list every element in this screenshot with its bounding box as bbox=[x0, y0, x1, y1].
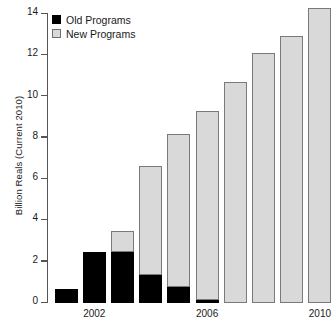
bar-segment-old-programs[interactable] bbox=[83, 252, 106, 303]
y-axis-tick bbox=[41, 95, 47, 96]
y-axis-tick bbox=[41, 219, 47, 220]
bar-segment-new-programs[interactable] bbox=[280, 36, 303, 303]
bar-group[interactable] bbox=[280, 14, 303, 303]
chart-figure: Billion Reals (Current 2010) 02468101214… bbox=[0, 0, 334, 331]
y-axis-tick bbox=[41, 178, 47, 179]
bar-segment-new-programs[interactable] bbox=[167, 134, 190, 287]
legend-swatch-old-programs-icon bbox=[52, 15, 61, 24]
bar-group[interactable] bbox=[224, 14, 247, 303]
bar-segment-new-programs[interactable] bbox=[111, 231, 134, 252]
legend-label-old-programs: Old Programs bbox=[66, 14, 131, 26]
bar-segment-new-programs[interactable] bbox=[139, 166, 162, 275]
y-axis-tick-label: 0 bbox=[0, 296, 38, 306]
bar-segment-new-programs[interactable] bbox=[224, 82, 247, 303]
bar-segment-new-programs[interactable] bbox=[308, 8, 331, 303]
bar-group[interactable] bbox=[111, 14, 134, 303]
y-axis-tick-label: 4 bbox=[0, 213, 38, 223]
y-axis-tick bbox=[41, 260, 47, 261]
y-axis-tick-label: 14 bbox=[0, 7, 38, 17]
bar-group[interactable] bbox=[139, 14, 162, 303]
bar-group[interactable] bbox=[55, 14, 78, 303]
y-axis-tick bbox=[41, 302, 47, 303]
x-axis-tick-label: 2006 bbox=[177, 308, 237, 319]
bar-group[interactable] bbox=[196, 14, 219, 303]
legend-item-old-programs: Old Programs bbox=[52, 13, 135, 26]
y-axis-tick bbox=[41, 54, 47, 55]
bar-segment-new-programs[interactable] bbox=[196, 111, 219, 300]
legend-label-new-programs: New Programs bbox=[66, 28, 135, 40]
bar-group[interactable] bbox=[308, 14, 331, 303]
plot-area bbox=[48, 13, 334, 303]
bar-group[interactable] bbox=[252, 14, 275, 303]
legend-swatch-new-programs-icon bbox=[52, 29, 61, 38]
y-axis-tick-label: 10 bbox=[0, 90, 38, 100]
bar-group[interactable] bbox=[83, 14, 106, 303]
chart-legend: Old Programs New Programs bbox=[52, 13, 135, 41]
y-axis-tick-label: 8 bbox=[0, 131, 38, 141]
y-axis-tick-label: 6 bbox=[0, 172, 38, 182]
legend-item-new-programs: New Programs bbox=[52, 27, 135, 40]
bar-segment-old-programs[interactable] bbox=[167, 287, 190, 303]
bar-segment-old-programs[interactable] bbox=[111, 252, 134, 303]
x-axis-tick-label: 2002 bbox=[64, 308, 124, 319]
bar-segment-old-programs[interactable] bbox=[139, 275, 162, 303]
y-axis-tick-label: 12 bbox=[0, 48, 38, 58]
x-axis-tick-label: 2010 bbox=[290, 308, 334, 319]
y-axis-tick-label: 2 bbox=[0, 255, 38, 265]
bar-segment-old-programs[interactable] bbox=[196, 300, 219, 303]
bar-segment-new-programs[interactable] bbox=[252, 53, 275, 303]
y-axis-title: Billion Reals (Current 2010) bbox=[13, 56, 24, 256]
bar-segment-old-programs[interactable] bbox=[55, 289, 78, 303]
bar-group[interactable] bbox=[167, 14, 190, 303]
y-axis-tick bbox=[41, 13, 47, 14]
y-axis-tick bbox=[41, 136, 47, 137]
